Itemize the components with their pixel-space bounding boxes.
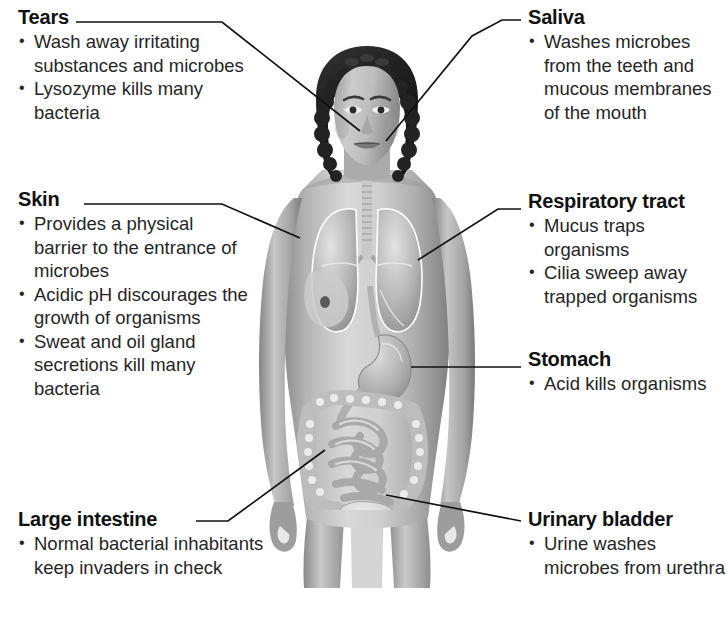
label-saliva-bullets: Washes microbes from the teeth and mucou… [528, 30, 727, 124]
label-large-intestine-title: Large intestine [18, 508, 268, 531]
head [334, 66, 400, 165]
list-item: Lysozyme kills many bacteria [18, 77, 268, 124]
label-stomach: Stomach Acid kills organisms [528, 348, 727, 396]
label-tears-bullets: Wash away irritating substances and micr… [18, 30, 268, 124]
human-body-illustration [232, 40, 502, 600]
list-item: Mucus traps organisms [528, 214, 727, 261]
label-saliva-title: Saliva [528, 6, 727, 29]
label-large-intestine-bullets: Normal bacterial inhabitants keep invade… [18, 532, 268, 579]
label-skin-bullets: Provides a physical barrier to the entra… [18, 212, 248, 400]
label-tears: Tears Wash away irritating substances an… [18, 6, 268, 124]
label-skin: Skin Provides a physical barrier to the … [18, 188, 248, 400]
list-item: Normal bacterial inhabitants keep invade… [18, 532, 268, 579]
list-item: Acidic pH discourages the growth of orga… [18, 283, 248, 330]
label-skin-title: Skin [18, 188, 248, 211]
list-item: Provides a physical barrier to the entra… [18, 212, 248, 283]
label-respiratory-tract: Respiratory tract Mucus traps organisms … [528, 190, 727, 308]
list-item: Cilia sweep away trapped organisms [528, 261, 727, 308]
label-large-intestine: Large intestine Normal bacterial inhabit… [18, 508, 268, 579]
list-item: Wash away irritating substances and micr… [18, 30, 268, 77]
label-respiratory-tract-bullets: Mucus traps organisms Cilia sweep away t… [528, 214, 727, 308]
list-item: Washes microbes from the teeth and mucou… [528, 30, 727, 124]
label-respiratory-tract-title: Respiratory tract [528, 190, 727, 213]
label-urinary-bladder-bullets: Urine washes microbes from urethra [528, 532, 727, 579]
label-urinary-bladder: Urinary bladder Urine washes microbes fr… [528, 508, 727, 579]
list-item: Sweat and oil gland secretions kill many… [18, 330, 248, 401]
label-tears-title: Tears [18, 6, 268, 29]
defense-diagram: Tears Wash away irritating substances an… [0, 0, 727, 632]
label-urinary-bladder-title: Urinary bladder [528, 508, 727, 531]
list-item: Urine washes microbes from urethra [528, 532, 727, 579]
label-stomach-bullets: Acid kills organisms [528, 372, 727, 396]
label-stomach-title: Stomach [528, 348, 727, 371]
list-item: Acid kills organisms [528, 372, 727, 396]
label-saliva: Saliva Washes microbes from the teeth an… [528, 6, 727, 124]
